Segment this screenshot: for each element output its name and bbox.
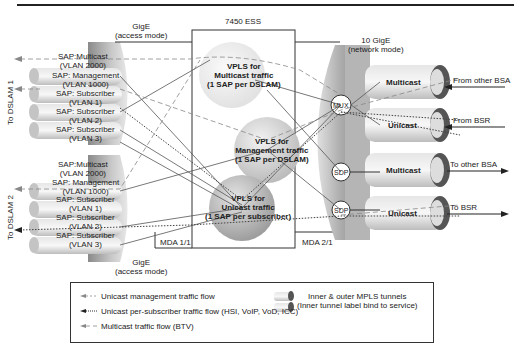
tunnel-multicast-out: Multicast (386, 166, 421, 175)
sap-management-dslam2: SAP: Management(VLAN 1000) (52, 178, 119, 196)
left-port-bottom-label: GigE (access mode) (115, 258, 167, 276)
flow-from-bsr: From BSR (453, 116, 490, 125)
mux-node: MUX (333, 101, 349, 110)
port-name: 10 GigE (348, 36, 404, 45)
sdp-node-2: SDP (334, 206, 348, 215)
vpls-multicast: VPLS forMulticast traffic(1 SAP per DSLA… (207, 62, 281, 89)
flow-to-other-bsa: To other BSA (450, 160, 497, 169)
port-name: GigE (115, 22, 167, 31)
legend: Unicast management traffic flow Unicast … (70, 282, 434, 343)
sap-subscriber-2-dslam1: SAP: Subscriber(VLAN 2) (56, 107, 115, 125)
sap-subscriber-1-dslam1: SAP: Subscriber(VLAN 1) (56, 89, 115, 107)
sap-multicast-dslam2: SAP:Multicast(VLAN 2000) (58, 160, 108, 178)
mda-left-label: MDA 1/1 (160, 238, 191, 247)
mda-right-label: MDA 2/1 (302, 238, 333, 247)
legend-item-multicast: Multicast traffic flow (BTV) (101, 322, 194, 331)
sap-management-dslam1: SAP: Management(VLAN 1000) (52, 71, 119, 89)
right-port-label: 10 GigE (network mode) (348, 36, 404, 54)
flow-from-other-bsa: From other BSA (453, 76, 510, 85)
legend-item-subscriber: Unicast per-subscriber traffic flow (HSI… (101, 307, 298, 316)
tunnel-multicast-in: Multicast (386, 78, 421, 87)
left-port-top-label: GigE (access mode) (115, 22, 167, 40)
ess-label: 7450 ESS (225, 17, 261, 26)
sap-multicast-dslam1: SAP:Multicast(VLAN 2000) (58, 52, 108, 70)
sap-subscriber-3-dslam1: SAP: Subscriber(VLAN 3) (56, 125, 115, 143)
tunnel-unicast-in: Unicast (388, 121, 417, 130)
dslam2-label: To DSLAM 2 (6, 195, 15, 240)
port-mode: (network mode) (348, 45, 404, 54)
port-name: GigE (115, 258, 167, 267)
sap-subscriber-2-dslam2: SAP: Subscriber(VLAN 2) (56, 213, 115, 231)
flow-to-bsr: To BSR (450, 203, 477, 212)
sap-subscriber-1-dslam2: SAP: Subscriber(VLAN 1) (56, 195, 115, 213)
sdp-node-1: SDP (334, 168, 348, 177)
legend-tunnel-label: Inner & outer MPLS tunnels (Inner tunnel… (297, 292, 418, 310)
tunnel-unicast-out: Unicast (388, 209, 417, 218)
legend-item-management: Unicast management traffic flow (101, 292, 215, 301)
dslam1-label: To DSLAM 1 (6, 80, 15, 125)
sap-subscriber-3-dslam2: SAP: Subscriber(VLAN 3) (56, 231, 115, 249)
vpls-management: VPLS forManagement traffic(1 SAP per DSL… (235, 137, 309, 164)
port-mode: (access mode) (115, 267, 167, 276)
port-mode: (access mode) (115, 31, 167, 40)
vpls-unicast: VPLS forUnicast traffic(1 SAP per subscr… (205, 194, 291, 221)
